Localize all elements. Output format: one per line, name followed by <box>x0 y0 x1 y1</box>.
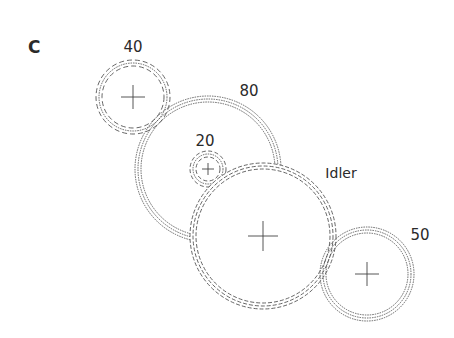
gear-idler <box>190 163 336 309</box>
gear-40-label: 40 <box>123 38 142 56</box>
gear-40-center-cross-icon <box>121 85 145 109</box>
gear-50-label: 50 <box>410 226 429 244</box>
gear-80-label: 80 <box>239 82 258 100</box>
panel-label: C <box>28 37 40 57</box>
gear-train-diagram: C 40 80 20 Idler 50 <box>0 0 454 338</box>
gear-20-label: 20 <box>195 132 214 150</box>
idler-label: Idler <box>325 165 357 181</box>
gear-50-center-cross-icon <box>355 262 379 286</box>
gear-20-center-cross-icon <box>202 163 214 175</box>
